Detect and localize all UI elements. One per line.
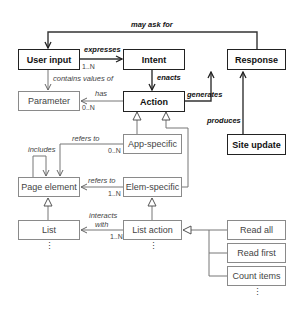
ellipsis-list-action: ⋮: [149, 245, 155, 248]
node-count-items: Count items: [227, 266, 286, 286]
multiplicity-refers-to-elem: 1..N: [108, 190, 121, 197]
node-site-update: Site update: [227, 134, 286, 155]
node-intent: Intent: [123, 49, 185, 70]
node-elem-specific: Elem-specific: [123, 177, 182, 197]
node-list-action: List action: [123, 220, 182, 240]
edge-label-expresses: expresses: [84, 46, 121, 54]
edge-label-has: has: [95, 90, 107, 98]
node-read-all: Read all: [227, 220, 286, 240]
node-action: Action: [123, 91, 185, 112]
node-user-input: User input: [18, 49, 80, 70]
multiplicity-refers-to-app: 0..N: [108, 147, 121, 154]
entity-relationship-diagram: User input Intent Response Parameter Act…: [0, 0, 302, 312]
edge-label-may-ask-for: may ask for: [131, 21, 173, 29]
multiplicity-interacts-with: 1..N: [110, 233, 123, 240]
edge-label-produces: produces: [207, 117, 241, 125]
multiplicity-has: 0..N: [82, 104, 95, 111]
ellipsis-list: ⋮: [45, 245, 51, 248]
edge-label-enacts: enacts: [157, 74, 181, 82]
node-parameter: Parameter: [18, 91, 80, 111]
edge-label-interacts: interacts: [89, 212, 117, 220]
node-app-specific: App-specific: [123, 134, 182, 154]
edge-label-includes: includes: [28, 146, 56, 154]
edge-label-refers-to-app: refers to: [72, 135, 100, 143]
multiplicity-expresses: 1..N: [82, 63, 95, 70]
node-read-first: Read first: [227, 243, 286, 263]
node-list: List: [18, 220, 80, 240]
node-response: Response: [227, 49, 286, 70]
edge-label-contains-values-of: contains values of: [53, 75, 113, 83]
node-page-element: Page element: [18, 177, 80, 197]
ellipsis-list-action-subtypes: ⋮: [253, 291, 259, 294]
edge-label-with: with: [95, 221, 108, 229]
edge-label-generates: generates: [187, 91, 222, 99]
edge-label-refers-to-elem: refers to: [88, 177, 116, 185]
